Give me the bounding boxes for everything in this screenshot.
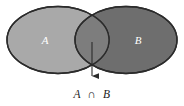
set-b-label: B xyxy=(135,34,142,46)
caption-left-operand: A xyxy=(73,88,82,100)
intersection-caption: A ∩ B xyxy=(73,88,111,100)
caption-operator-icon: ∩ xyxy=(88,88,97,100)
venn-diagram-figure: A B A ∩ B xyxy=(0,0,184,106)
caption-right-operand: B xyxy=(103,88,110,100)
venn-diagram-canvas: A B A ∩ B xyxy=(0,0,184,106)
set-a-label: A xyxy=(41,34,49,46)
